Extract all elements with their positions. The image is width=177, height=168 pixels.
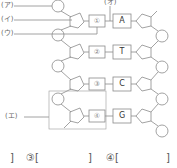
label-u: (ウ): [1, 30, 13, 37]
label-e: (エ): [5, 113, 17, 120]
sugar-pentagon: [70, 76, 84, 91]
phosphate-circle: [156, 125, 168, 137]
label-i: (イ): [1, 16, 13, 23]
sugar-pentagon: [70, 13, 84, 28]
answer-4-open: ④[: [106, 153, 119, 163]
base-letter: T: [113, 47, 131, 56]
sugar-pentagon: [136, 109, 151, 123]
answer-4-close: ]: [166, 153, 170, 163]
phosphate-circle: [156, 61, 168, 73]
pair-number: ①: [89, 17, 105, 25]
label-a: (ア): [1, 2, 13, 9]
sugar-pentagon: [136, 77, 151, 91]
sugar-pentagon: [70, 44, 84, 59]
phosphate-circle: [52, 93, 64, 105]
phosphate-circle: [156, 30, 168, 42]
base-letter: C: [113, 79, 131, 88]
pair-number: ③: [89, 80, 105, 88]
phosphate-circle: [156, 93, 168, 105]
base-letter: A: [113, 16, 131, 25]
label-o: (オ): [104, 0, 116, 6]
phosphate-circle: [52, 0, 64, 12]
answer-3-close: ]: [88, 153, 92, 163]
answer-bracket-close: ]: [10, 153, 14, 163]
base-letter: G: [113, 111, 131, 120]
sugar-pentagon: [70, 108, 84, 123]
answer-3-open: ③[: [26, 153, 39, 163]
sugar-pentagon: [136, 45, 151, 59]
phosphate-circle: [52, 29, 64, 41]
sugar-pentagon: [136, 14, 151, 28]
phosphate-circle: [52, 60, 64, 72]
pair-number: ④: [89, 112, 105, 120]
pair-number: ②: [89, 48, 105, 56]
